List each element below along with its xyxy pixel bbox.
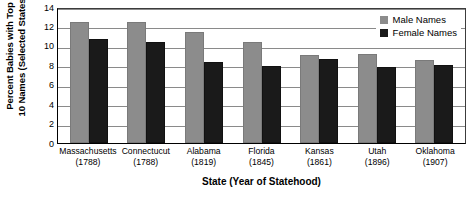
bar-male: [300, 55, 319, 143]
legend-item-female: Female Names: [380, 27, 457, 38]
legend-item-male: Male Names: [380, 14, 457, 25]
x-axis-tick-label: Kansas(1861): [290, 146, 348, 168]
y-axis-tick-label: 8: [38, 62, 54, 71]
bar-male: [185, 32, 204, 143]
bar-female: [204, 62, 223, 143]
y-axis-tick-label: 0: [38, 140, 54, 149]
y-axis-tick-label: 10: [38, 42, 54, 51]
legend-label-female: Female Names: [393, 27, 457, 38]
y-axis-title-line-1: Percent Babies with Top: [4, 0, 16, 126]
legend-swatch-male-icon: [380, 16, 388, 24]
x-axis-tick-label: Connectucut(1788): [117, 146, 175, 168]
x-tick-state-name: Utah: [348, 146, 406, 157]
bar-male: [415, 60, 434, 143]
bar-chart-figure: Percent Babies with Top 10 Names (Select…: [0, 0, 473, 198]
x-axis-tick-label: Massachusetts(1788): [59, 146, 117, 168]
bar-group: [290, 9, 348, 143]
x-tick-state-name: Oklahoma: [406, 146, 464, 157]
x-tick-state-name: Massachusetts: [59, 146, 117, 157]
y-axis-tick-label: 2: [38, 120, 54, 129]
bar-female: [319, 59, 338, 143]
bar-group: [60, 9, 118, 143]
y-axis-tick-label: 12: [38, 23, 54, 32]
x-tick-state-name: Connectucut: [117, 146, 175, 157]
bar-female: [434, 65, 453, 143]
bar-male: [127, 22, 146, 143]
x-tick-statehood-year: (1907): [406, 157, 464, 168]
x-tick-statehood-year: (1788): [59, 157, 117, 168]
x-tick-statehood-year: (1788): [117, 157, 175, 168]
bar-group: [175, 9, 233, 143]
x-tick-state-name: Kansas: [290, 146, 348, 157]
legend-swatch-female-icon: [380, 29, 388, 37]
bar-group: [118, 9, 176, 143]
x-axis-tick-label: Utah(1896): [348, 146, 406, 168]
bar-female: [262, 66, 281, 143]
y-axis-tick-labels: 02468101214: [38, 8, 54, 144]
x-tick-state-name: Florida: [233, 146, 291, 157]
bar-female: [146, 42, 165, 143]
x-tick-statehood-year: (1845): [233, 157, 291, 168]
x-axis-tick-label: Florida(1845): [233, 146, 291, 168]
y-axis-tick-label: 14: [38, 4, 54, 13]
y-axis-tick-label: 4: [38, 101, 54, 110]
bar-female: [89, 39, 108, 143]
bar-group: [233, 9, 291, 143]
x-axis-tick-label: Oklahoma(1907): [406, 146, 464, 168]
y-axis-title-line-2: 10 Names (Selected States): [16, 0, 28, 126]
bar-male: [70, 22, 89, 143]
x-tick-statehood-year: (1896): [348, 157, 406, 168]
legend-label-male: Male Names: [393, 14, 446, 25]
y-axis-tick-label: 6: [38, 81, 54, 90]
bar-male: [243, 42, 262, 143]
legend: Male Names Female Names: [376, 12, 461, 40]
x-tick-state-name: Alabama: [175, 146, 233, 157]
x-tick-statehood-year: (1819): [175, 157, 233, 168]
x-tick-statehood-year: (1861): [290, 157, 348, 168]
bar-male: [358, 54, 377, 143]
x-axis-tick-labels: Massachusetts(1788)Connectucut(1788)Alab…: [57, 146, 466, 168]
plot-area: Male Names Female Names: [57, 8, 466, 144]
x-axis-tick-label: Alabama(1819): [175, 146, 233, 168]
x-axis-title: State (Year of Statehood): [57, 176, 466, 187]
bar-female: [377, 67, 396, 143]
